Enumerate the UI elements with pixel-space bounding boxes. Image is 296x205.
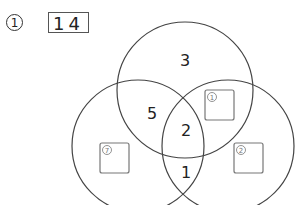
left-only-slot[interactable]: 7 xyxy=(100,143,129,173)
venn-diagram: 172 3521 xyxy=(0,0,296,205)
region-top-left: 5 xyxy=(147,104,157,123)
region-top-only: 3 xyxy=(180,51,190,70)
top-right-slot[interactable]: 1 xyxy=(205,90,234,120)
slot-marker-number: 7 xyxy=(105,147,109,155)
slot-marker-number: 1 xyxy=(210,94,214,102)
circle-left xyxy=(72,80,204,205)
region-left-right: 1 xyxy=(181,163,191,182)
right-only-slot[interactable]: 2 xyxy=(234,143,263,173)
region-center: 2 xyxy=(181,121,191,140)
slot-marker-number: 2 xyxy=(239,147,243,155)
